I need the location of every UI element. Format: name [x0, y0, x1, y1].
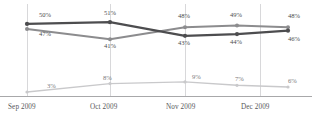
data-label-light-3: 7% [235, 75, 244, 82]
series-dark-line [25, 20, 290, 38]
x-tick-label-nov-2009: Nov 2009 [166, 103, 195, 111]
line-chart: 50% 51% 43% 44% 46% 47% 41% 48% 49% 48% … [0, 0, 312, 121]
data-label-light-2: 9% [192, 73, 201, 80]
data-label-medium-0: 47% [39, 30, 51, 37]
data-label-medium-1: 41% [104, 42, 116, 49]
x-tick-label-oct-2009: Oct 2009 [90, 103, 117, 111]
data-label-dark-2: 43% [178, 39, 190, 46]
data-label-medium-2: 48% [178, 12, 190, 19]
data-label-medium-4: 48% [288, 12, 300, 19]
data-label-dark-4: 46% [288, 35, 300, 42]
data-label-medium-3: 49% [230, 11, 242, 18]
data-label-dark-0: 50% [39, 11, 51, 18]
data-label-light-4: 6% [288, 77, 297, 84]
data-label-light-1: 8% [103, 74, 112, 81]
data-label-dark-1: 51% [104, 9, 116, 16]
series-light-line [25, 80, 289, 93]
data-label-dark-3: 44% [230, 38, 242, 45]
x-tick-label-dec-2009: Dec 2009 [241, 103, 270, 111]
data-label-light-0: 3% [47, 82, 56, 89]
x-tick-label-sep-2009: Sep 2009 [8, 103, 36, 111]
